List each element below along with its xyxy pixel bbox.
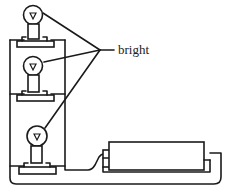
bright-label: bright xyxy=(118,42,149,57)
bulb-holder xyxy=(19,167,56,174)
bulb-neck xyxy=(28,75,39,92)
label-leader-lines xyxy=(43,13,114,128)
bulb-holder xyxy=(17,95,54,101)
circuit-diagram: bright xyxy=(0,0,228,189)
bulb-neck xyxy=(31,146,42,163)
bulb-holder xyxy=(17,41,54,47)
bulb-neck xyxy=(28,24,39,39)
right-column-wire xyxy=(65,40,108,170)
battery-body xyxy=(109,142,204,170)
bulb-globe xyxy=(24,57,43,76)
bulb-globe xyxy=(24,6,43,25)
bulb-1 xyxy=(17,6,54,48)
bulb-globe xyxy=(27,126,47,146)
bulb-2 xyxy=(17,57,54,102)
battery xyxy=(103,142,210,172)
bulb-3 xyxy=(19,126,56,174)
